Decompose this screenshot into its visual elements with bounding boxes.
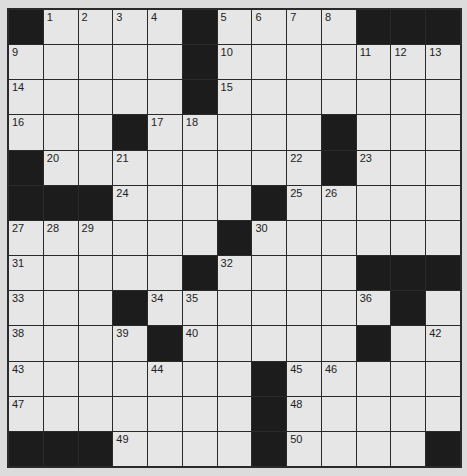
crossword-cell[interactable] (218, 326, 252, 360)
crossword-cell[interactable]: 44 (148, 362, 182, 396)
crossword-cell[interactable] (426, 397, 460, 431)
crossword-cell[interactable] (183, 151, 217, 185)
crossword-cell[interactable] (113, 397, 147, 431)
crossword-cell[interactable]: 48 (287, 397, 321, 431)
crossword-cell[interactable]: 26 (322, 186, 356, 220)
crossword-cell[interactable] (44, 256, 78, 290)
crossword-cell[interactable] (287, 291, 321, 325)
crossword-cell[interactable]: 25 (287, 186, 321, 220)
crossword-cell[interactable] (218, 151, 252, 185)
crossword-cell[interactable] (391, 151, 425, 185)
crossword-cell[interactable] (357, 432, 391, 466)
crossword-cell[interactable] (113, 362, 147, 396)
crossword-cell[interactable]: 40 (183, 326, 217, 360)
crossword-cell[interactable] (218, 397, 252, 431)
crossword-cell[interactable] (391, 397, 425, 431)
crossword-cell[interactable]: 8 (322, 10, 356, 44)
crossword-cell[interactable] (79, 291, 113, 325)
crossword-cell[interactable]: 33 (9, 291, 43, 325)
crossword-cell[interactable] (252, 151, 286, 185)
crossword-cell[interactable] (391, 432, 425, 466)
crossword-cell[interactable] (252, 291, 286, 325)
crossword-cell[interactable]: 1 (44, 10, 78, 44)
crossword-cell[interactable] (287, 45, 321, 79)
crossword-cell[interactable]: 2 (79, 10, 113, 44)
crossword-cell[interactable] (357, 362, 391, 396)
crossword-cell[interactable] (322, 256, 356, 290)
crossword-cell[interactable] (322, 326, 356, 360)
crossword-cell[interactable] (148, 151, 182, 185)
crossword-cell[interactable]: 6 (252, 10, 286, 44)
crossword-cell[interactable] (148, 80, 182, 114)
crossword-cell[interactable] (148, 432, 182, 466)
crossword-cell[interactable] (148, 186, 182, 220)
crossword-cell[interactable]: 38 (9, 326, 43, 360)
crossword-cell[interactable] (113, 80, 147, 114)
crossword-cell[interactable] (79, 256, 113, 290)
crossword-cell[interactable] (183, 397, 217, 431)
crossword-cell[interactable] (183, 186, 217, 220)
crossword-cell[interactable] (148, 397, 182, 431)
crossword-cell[interactable]: 30 (252, 221, 286, 255)
crossword-cell[interactable]: 28 (44, 221, 78, 255)
crossword-cell[interactable]: 39 (113, 326, 147, 360)
crossword-cell[interactable]: 3 (113, 10, 147, 44)
crossword-cell[interactable] (391, 326, 425, 360)
crossword-cell[interactable] (113, 221, 147, 255)
crossword-cell[interactable]: 16 (9, 115, 43, 149)
crossword-cell[interactable] (287, 115, 321, 149)
crossword-cell[interactable] (426, 362, 460, 396)
crossword-cell[interactable]: 31 (9, 256, 43, 290)
crossword-cell[interactable] (322, 432, 356, 466)
crossword-cell[interactable]: 49 (113, 432, 147, 466)
crossword-cell[interactable] (391, 80, 425, 114)
crossword-cell[interactable] (426, 151, 460, 185)
crossword-cell[interactable]: 46 (322, 362, 356, 396)
crossword-cell[interactable]: 50 (287, 432, 321, 466)
crossword-cell[interactable] (79, 397, 113, 431)
crossword-cell[interactable] (218, 362, 252, 396)
crossword-cell[interactable] (322, 221, 356, 255)
crossword-cell[interactable] (113, 45, 147, 79)
crossword-cell[interactable] (426, 80, 460, 114)
crossword-cell[interactable]: 7 (287, 10, 321, 44)
crossword-cell[interactable] (322, 397, 356, 431)
crossword-cell[interactable] (252, 256, 286, 290)
crossword-cell[interactable] (287, 80, 321, 114)
crossword-cell[interactable] (391, 362, 425, 396)
crossword-cell[interactable] (44, 362, 78, 396)
crossword-cell[interactable]: 9 (9, 45, 43, 79)
crossword-cell[interactable] (44, 115, 78, 149)
crossword-cell[interactable] (391, 186, 425, 220)
crossword-cell[interactable]: 47 (9, 397, 43, 431)
crossword-cell[interactable]: 42 (426, 326, 460, 360)
crossword-cell[interactable]: 22 (287, 151, 321, 185)
crossword-cell[interactable] (252, 326, 286, 360)
crossword-cell[interactable]: 35 (183, 291, 217, 325)
crossword-cell[interactable]: 13 (426, 45, 460, 79)
crossword-cell[interactable] (79, 151, 113, 185)
crossword-cell[interactable] (357, 221, 391, 255)
crossword-cell[interactable] (44, 326, 78, 360)
crossword-cell[interactable] (252, 45, 286, 79)
crossword-cell[interactable]: 23 (357, 151, 391, 185)
crossword-cell[interactable]: 21 (113, 151, 147, 185)
crossword-cell[interactable]: 15 (218, 80, 252, 114)
crossword-cell[interactable]: 29 (79, 221, 113, 255)
crossword-cell[interactable] (183, 432, 217, 466)
crossword-cell[interactable] (183, 362, 217, 396)
crossword-cell[interactable] (44, 80, 78, 114)
crossword-cell[interactable] (426, 186, 460, 220)
crossword-cell[interactable] (252, 80, 286, 114)
crossword-cell[interactable] (183, 221, 217, 255)
crossword-cell[interactable]: 34 (148, 291, 182, 325)
crossword-cell[interactable]: 18 (183, 115, 217, 149)
crossword-cell[interactable]: 14 (9, 80, 43, 114)
crossword-cell[interactable] (79, 115, 113, 149)
crossword-cell[interactable] (357, 397, 391, 431)
crossword-cell[interactable] (148, 221, 182, 255)
crossword-cell[interactable]: 5 (218, 10, 252, 44)
crossword-cell[interactable] (252, 115, 286, 149)
crossword-cell[interactable]: 17 (148, 115, 182, 149)
crossword-cell[interactable] (322, 45, 356, 79)
